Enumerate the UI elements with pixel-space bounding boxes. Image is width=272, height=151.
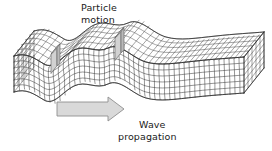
wave-propagation-arrow <box>57 97 124 121</box>
particle-motion-label-line2: motion <box>79 14 117 26</box>
s-wave-propagation-figure: Particle motion Wave propagation <box>0 0 272 151</box>
wave-propagation-label: Wave propagation <box>118 119 177 142</box>
wave-propagation-label-line2: propagation <box>118 131 177 143</box>
particle-motion-label-line1: Particle <box>81 2 117 14</box>
wave-propagation-label-line1: Wave <box>128 119 177 131</box>
particle-motion-label: Particle motion <box>79 2 117 25</box>
